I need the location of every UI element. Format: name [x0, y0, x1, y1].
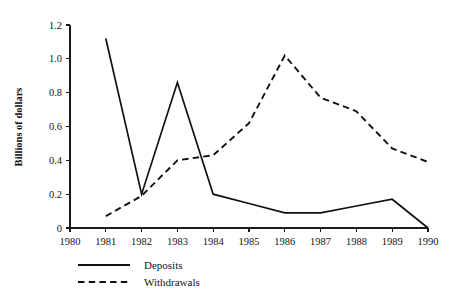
x-tick-label: 1985 — [239, 236, 260, 247]
y-tick-label: 0.2 — [49, 189, 62, 200]
x-tick-label: 1990 — [418, 236, 439, 247]
data-series-group — [106, 39, 428, 228]
x-tick-label: 1983 — [167, 236, 188, 247]
x-tick-label: 1982 — [131, 236, 152, 247]
x-tick-label: 1988 — [346, 236, 367, 247]
x-tick-label: 1984 — [203, 236, 225, 247]
x-tick-label: 1986 — [274, 236, 295, 247]
y-tick-label: 0.4 — [49, 155, 63, 166]
x-tick-label: 1981 — [95, 236, 116, 247]
y-tick-label: 0.6 — [49, 121, 62, 132]
y-axis-title-group: Billions of dollars — [13, 88, 24, 167]
y-tick-label: 0 — [57, 223, 62, 234]
series-line-withdrawals — [106, 55, 428, 216]
axes-group — [70, 25, 428, 228]
x-axis-ticks: 1980198119821983198419851986198719881989… — [60, 228, 439, 247]
y-axis-title: Billions of dollars — [13, 88, 24, 167]
y-tick-label: 1.2 — [49, 20, 62, 31]
legend-label-deposits: Deposits — [144, 259, 183, 271]
chart-legend: DepositsWithdrawals — [78, 259, 200, 288]
chart-container: Billions of dollars 00.20.40.60.81.01.2 … — [0, 0, 468, 297]
legend-label-withdrawals: Withdrawals — [144, 276, 200, 288]
y-axis-ticks: 00.20.40.60.81.01.2 — [49, 20, 70, 234]
line-chart: Billions of dollars 00.20.40.60.81.01.2 … — [0, 0, 468, 297]
x-tick-label: 1980 — [60, 236, 81, 247]
y-tick-label: 1.0 — [49, 53, 62, 64]
series-line-deposits — [106, 39, 428, 228]
y-tick-label: 0.8 — [49, 87, 62, 98]
x-tick-label: 1987 — [310, 236, 331, 247]
x-tick-label: 1989 — [382, 236, 403, 247]
